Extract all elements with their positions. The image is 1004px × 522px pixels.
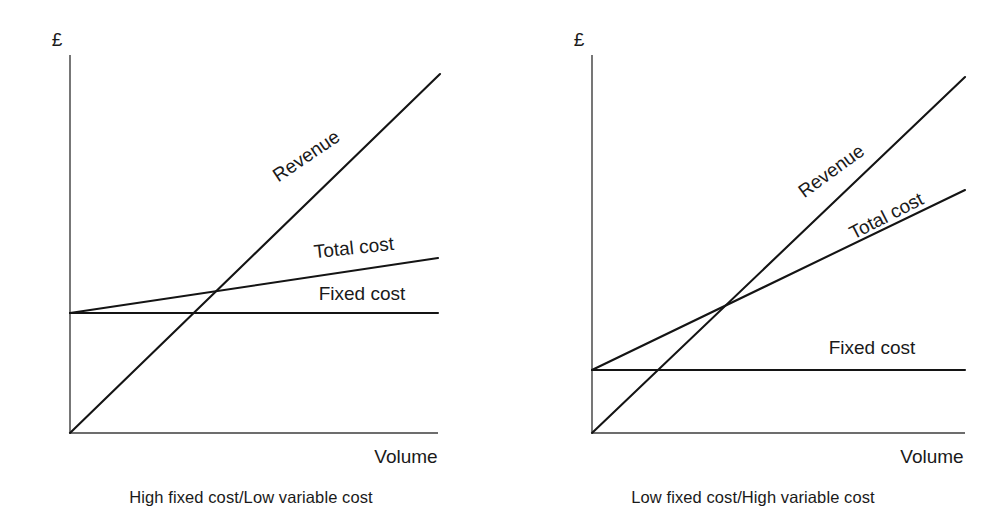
chart-panel-high-fixed-cost: £ Volume Revenue Total cost Fixed cost H… xyxy=(0,0,502,522)
y-axis-label-right: £ xyxy=(574,29,585,50)
chart-right-plot: £ Volume Revenue Total cost Fixed cost xyxy=(502,0,1004,480)
y-axis-label-left: £ xyxy=(52,29,63,50)
revenue-line-right xyxy=(592,77,965,433)
total-cost-label-right: Total cost xyxy=(846,188,928,243)
chart-caption-right: Low fixed cost/High variable cost xyxy=(502,488,1004,507)
x-axis-label-left: Volume xyxy=(374,446,437,467)
chart-panel-low-fixed-cost: £ Volume Revenue Total cost Fixed cost L… xyxy=(502,0,1004,522)
revenue-label-right: Revenue xyxy=(794,140,868,202)
fixed-cost-label-left: Fixed cost xyxy=(319,283,406,304)
fixed-cost-label-right: Fixed cost xyxy=(829,337,916,358)
chart-left-plot: £ Volume Revenue Total cost Fixed cost xyxy=(0,0,502,480)
chart-caption-left: High fixed cost/Low variable cost xyxy=(0,488,502,507)
break-even-charts-figure: £ Volume Revenue Total cost Fixed cost H… xyxy=(0,0,1004,522)
revenue-label-left: Revenue xyxy=(269,126,344,186)
total-cost-label-left: Total cost xyxy=(313,233,396,262)
x-axis-label-right: Volume xyxy=(900,446,963,467)
